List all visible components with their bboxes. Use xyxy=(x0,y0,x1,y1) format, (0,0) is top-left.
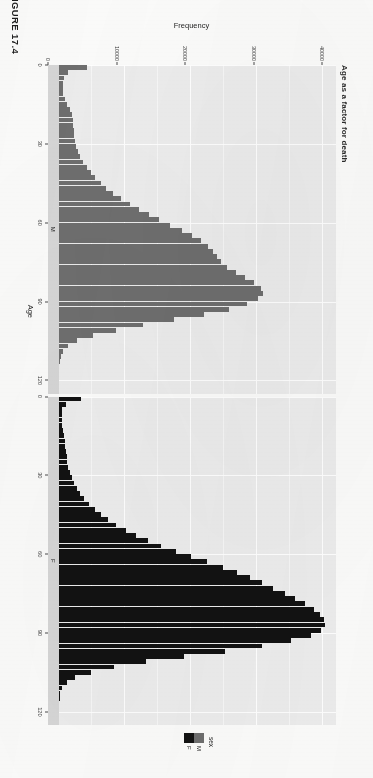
y-tick-label: 10000 xyxy=(113,46,119,61)
legend-key-swatch xyxy=(194,733,204,743)
facet-group: MF xyxy=(48,65,336,725)
histogram-bar xyxy=(59,107,70,112)
legend-key-label: F xyxy=(186,746,192,750)
histogram-bar xyxy=(59,407,62,412)
histogram-bar xyxy=(59,265,227,270)
x-tick-mark xyxy=(45,711,48,712)
histogram-bar xyxy=(59,244,208,249)
histogram-bar xyxy=(59,549,176,554)
x-tick-mark xyxy=(45,65,48,66)
legend: sex MF xyxy=(48,725,352,759)
y-axis-label: Frequency xyxy=(48,19,336,33)
bar-series-m xyxy=(59,65,336,394)
histogram-bar xyxy=(59,533,136,538)
histogram-bar xyxy=(59,349,63,354)
histogram-bar xyxy=(59,649,225,654)
histogram-bar xyxy=(59,112,72,117)
chart-title: Age as a factor for death xyxy=(336,19,352,759)
histogram-bar xyxy=(59,486,77,491)
histogram-bar xyxy=(59,338,77,343)
histogram-bar xyxy=(59,465,68,470)
histogram-bar xyxy=(59,328,116,333)
histogram-bar xyxy=(59,233,192,238)
histogram-bar xyxy=(59,449,66,454)
x-tick-label: 60 xyxy=(37,220,43,226)
histogram-bar xyxy=(59,623,325,628)
histogram-bar xyxy=(59,144,76,149)
histogram-bar xyxy=(59,517,108,522)
histogram-bar xyxy=(59,275,245,280)
histogram-bar xyxy=(59,139,75,144)
x-axis: 0306090120Age0306090120 xyxy=(22,19,48,759)
x-tick-mark xyxy=(45,380,48,381)
x-tick-mark xyxy=(45,633,48,634)
histogram-bar xyxy=(59,507,95,512)
histogram-bar xyxy=(59,344,68,349)
x-tick-mark xyxy=(45,475,48,476)
histogram-bar xyxy=(59,259,221,264)
histogram-bar xyxy=(59,86,63,91)
histogram-bar xyxy=(59,196,121,201)
facet-strip-label-f: F xyxy=(48,397,59,726)
histogram-bar xyxy=(59,149,78,154)
histogram-bar xyxy=(59,102,67,107)
histogram-bar xyxy=(59,601,305,606)
histogram-bar xyxy=(59,160,83,165)
histogram-bar xyxy=(59,402,66,407)
histogram-bar xyxy=(59,307,229,312)
histogram-bar xyxy=(59,202,130,207)
histogram-bar xyxy=(59,433,64,438)
histogram-bar xyxy=(59,538,148,543)
panels-row: Frequency 010000200003000040000 MF sex M… xyxy=(48,19,336,759)
histogram-bar xyxy=(59,270,236,275)
facet-panel-m xyxy=(59,65,336,394)
histogram-bar xyxy=(59,565,223,570)
histogram-bar xyxy=(59,280,254,285)
histogram-bar xyxy=(59,128,74,133)
histogram-bar xyxy=(59,170,91,175)
histogram-bar xyxy=(59,612,320,617)
legend-item-m: M xyxy=(194,733,204,751)
histogram-bar xyxy=(59,217,159,222)
histogram-bar xyxy=(59,302,247,307)
y-tick-label: 20000 xyxy=(182,46,188,61)
histogram-bar xyxy=(59,207,139,212)
x-tick-label: 60 xyxy=(37,551,43,557)
histogram-bar xyxy=(59,628,321,633)
histogram-bar xyxy=(59,165,87,170)
x-tick-mark xyxy=(45,222,48,223)
histogram-bar xyxy=(59,633,311,638)
histogram-bar xyxy=(59,559,207,564)
histogram-bar xyxy=(59,544,161,549)
x-tick-label: 30 xyxy=(37,472,43,478)
histogram-bar xyxy=(59,470,70,475)
histogram-bar xyxy=(59,123,74,128)
histogram-bar xyxy=(59,528,126,533)
histogram-bar xyxy=(59,286,261,291)
histogram-bar xyxy=(59,670,91,675)
histogram-bar xyxy=(59,586,273,591)
x-axis-panel: 0306090120Age xyxy=(22,65,48,394)
histogram-bar xyxy=(59,554,191,559)
y-axis-label-text: Frequency xyxy=(174,22,209,31)
histogram-bar xyxy=(59,154,80,159)
histogram-bar xyxy=(59,223,170,228)
legend-items: MF xyxy=(184,733,204,751)
histogram-bar xyxy=(59,97,65,102)
histogram-bar xyxy=(59,644,262,649)
legend-item-f: F xyxy=(184,733,194,751)
legend-key-swatch xyxy=(184,733,194,743)
histogram-bar xyxy=(59,454,67,459)
histogram-bar xyxy=(59,665,114,670)
histogram-bar xyxy=(59,680,67,685)
y-tick-label: 40000 xyxy=(319,46,325,61)
histogram-bar xyxy=(59,312,204,317)
histogram-bar xyxy=(59,575,250,580)
x-tick-label: 90 xyxy=(37,630,43,636)
chart-stage: Age as a factor for death Frequency 0100… xyxy=(22,19,352,759)
histogram-bar xyxy=(59,296,258,301)
histogram-bar xyxy=(59,191,113,196)
x-tick-mark xyxy=(45,301,48,302)
histogram-bar xyxy=(59,460,67,465)
histogram-bar xyxy=(59,475,72,480)
